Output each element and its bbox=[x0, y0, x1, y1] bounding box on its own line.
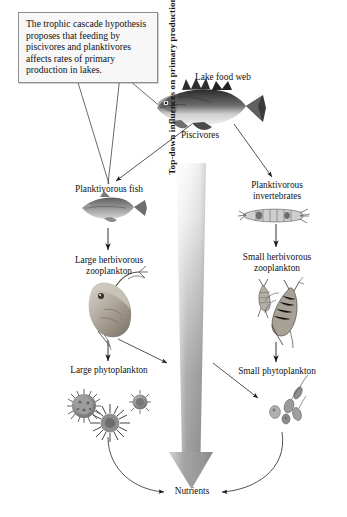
label-small-herbivorous-zooplankton: Small herbivorous zooplankton bbox=[222, 252, 332, 274]
edge-large-zooplankton-to-small-phytoplankton bbox=[118, 339, 167, 363]
edge-large-phytoplankton-to-nutrients bbox=[108, 437, 164, 492]
label-planktivorous-fish: Planktivorous fish bbox=[50, 184, 168, 195]
diagram-canvas: The trophic cascade hypothesis proposes … bbox=[0, 0, 347, 517]
top-down-influence-arrow bbox=[169, 163, 213, 489]
label-lake-food-web: Lake food web bbox=[168, 72, 278, 83]
label-top-down-influences: Top-down influences on primary productio… bbox=[167, 0, 177, 196]
label-large-herbivorous-zooplankton: Large herbivorous zooplankton bbox=[48, 255, 170, 277]
label-large-phytoplankton: Large phytoplankton bbox=[42, 365, 176, 376]
edge-small-phytoplankton-to-nutrients bbox=[222, 432, 283, 492]
caption-text-box: The trophic cascade hypothesis proposes … bbox=[18, 12, 158, 83]
label-nutrients: Nutrients bbox=[156, 486, 228, 497]
caption-text: The trophic cascade hypothesis proposes … bbox=[26, 18, 146, 75]
label-planktivorous-invertebrates: Planktivorous invertebrates bbox=[222, 180, 332, 202]
label-small-phytoplankton: Small phytoplankton bbox=[218, 366, 336, 377]
